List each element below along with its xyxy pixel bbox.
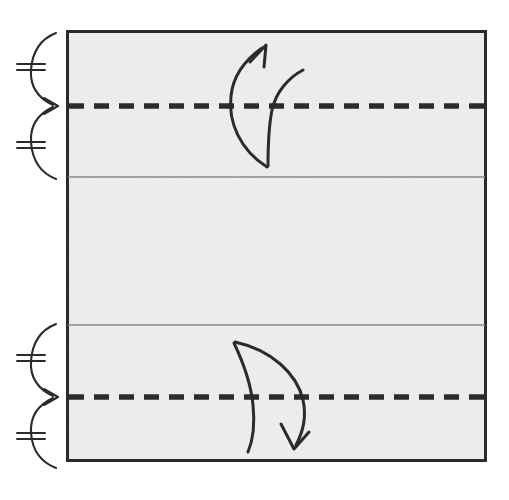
fold-diagram-svg [0, 0, 509, 500]
figure-root [0, 0, 509, 500]
